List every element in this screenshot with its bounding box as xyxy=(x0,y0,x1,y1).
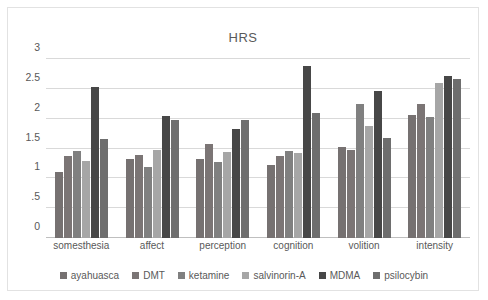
bar[interactable] xyxy=(91,87,99,238)
legend-item-psilocybin[interactable]: psilocybin xyxy=(373,270,428,281)
x-axis-label-affect: affect xyxy=(117,240,188,251)
bar[interactable] xyxy=(347,150,355,238)
bar[interactable] xyxy=(73,151,81,238)
legend-item-ketamine[interactable]: ketamine xyxy=(178,270,230,281)
bar[interactable] xyxy=(294,153,302,238)
bar[interactable] xyxy=(417,104,425,238)
legend-label: DMT xyxy=(143,270,165,281)
bar-group xyxy=(329,59,400,238)
bar[interactable] xyxy=(276,156,284,238)
bar[interactable] xyxy=(153,150,161,238)
bar[interactable] xyxy=(303,66,311,238)
y-axis-tick-label: .5 xyxy=(31,190,40,202)
bar[interactable] xyxy=(144,167,152,238)
bar[interactable] xyxy=(232,129,240,238)
legend-item-DMT[interactable]: DMT xyxy=(132,270,165,281)
x-axis-label-cognition: cognition xyxy=(258,240,329,251)
y-axis-tick-label: 3 xyxy=(34,41,40,53)
y-axis-tick-label: 2 xyxy=(34,101,40,113)
x-axis-label-volition: volition xyxy=(329,240,400,251)
chart-legend: ayahuascaDMTketaminesalvinorin-AMDMApsil… xyxy=(8,270,480,281)
x-axis-label-intensity: intensity xyxy=(399,240,470,251)
x-axis-category-labels: somesthesiaaffectperceptioncognitionvoli… xyxy=(46,240,470,251)
legend-swatch-icon xyxy=(319,272,326,279)
bar[interactable] xyxy=(126,159,134,238)
legend-item-salvinorin-A[interactable]: salvinorin-A xyxy=(242,270,305,281)
chart-title: HRS xyxy=(8,30,478,45)
legend-swatch-icon xyxy=(60,272,67,279)
bar[interactable] xyxy=(312,113,320,238)
bar[interactable] xyxy=(55,172,63,238)
chart-frame: HRS 0.511.522.53 somesthesiaaffectpercep… xyxy=(7,7,479,291)
bar[interactable] xyxy=(356,104,364,238)
y-axis-tick-label: 1 xyxy=(34,160,40,172)
legend-item-ayahuasca[interactable]: ayahuasca xyxy=(60,270,119,281)
legend-item-MDMA[interactable]: MDMA xyxy=(319,270,361,281)
y-axis-tick-label: 0 xyxy=(34,220,40,232)
bar[interactable] xyxy=(171,120,179,238)
bar[interactable] xyxy=(374,91,382,238)
bar-groups xyxy=(46,59,470,238)
x-axis-label-perception: perception xyxy=(187,240,258,251)
x-axis-label-somesthesia: somesthesia xyxy=(46,240,117,251)
bar-group xyxy=(187,59,258,238)
legend-swatch-icon xyxy=(132,272,139,279)
legend-label: ketamine xyxy=(189,270,230,281)
legend-label: ayahuasca xyxy=(71,270,119,281)
legend-label: psilocybin xyxy=(384,270,428,281)
bar-group xyxy=(258,59,329,238)
legend-swatch-icon xyxy=(373,272,380,279)
bar[interactable] xyxy=(408,115,416,239)
legend-label: MDMA xyxy=(330,270,361,281)
legend-swatch-icon xyxy=(178,272,185,279)
y-axis-tick-label: 2.5 xyxy=(25,71,40,83)
bar-group xyxy=(399,59,470,238)
bar[interactable] xyxy=(214,162,222,238)
bar[interactable] xyxy=(453,79,461,238)
plot-area: 0.511.522.53 xyxy=(46,59,470,238)
bar[interactable] xyxy=(205,144,213,238)
legend-swatch-icon xyxy=(242,272,249,279)
bar[interactable] xyxy=(285,151,293,238)
legend-label: salvinorin-A xyxy=(253,270,305,281)
bar[interactable] xyxy=(383,138,391,238)
bar[interactable] xyxy=(365,126,373,238)
y-axis-tick-label: 1.5 xyxy=(25,131,40,143)
bar[interactable] xyxy=(444,76,452,238)
bar[interactable] xyxy=(64,156,72,238)
bar[interactable] xyxy=(426,117,434,238)
bar-group xyxy=(117,59,188,238)
bar[interactable] xyxy=(135,155,143,238)
bar[interactable] xyxy=(196,159,204,238)
bar[interactable] xyxy=(82,161,90,238)
bar[interactable] xyxy=(267,165,275,238)
bar[interactable] xyxy=(241,120,249,238)
bar-group xyxy=(46,59,117,238)
bar[interactable] xyxy=(435,83,443,238)
bar[interactable] xyxy=(100,139,108,238)
bar[interactable] xyxy=(338,147,346,238)
bar[interactable] xyxy=(162,116,170,238)
bar[interactable] xyxy=(223,152,231,238)
